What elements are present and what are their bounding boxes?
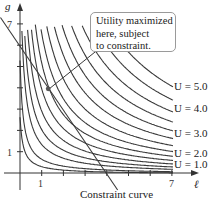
x-tick-label-7: 7 [169,178,174,189]
y-axis-arrow-icon [17,3,23,11]
curve-label-u3: U = 3.0 [174,127,208,139]
optimum-point [46,86,51,91]
constraint-label: Constraint curve [80,188,153,200]
y-axis-label: g [5,0,11,12]
callout-line-3: to constraint. [96,40,175,53]
callout-line-2: here, subject [96,28,175,41]
callout-line-1: Utility maximized [96,15,175,28]
x-axis-arrow-icon [191,170,199,176]
x-tick-label-1: 1 [38,178,43,189]
callout-leader-line [49,48,100,89]
y-tick-label-7: 7 [7,19,12,30]
indifference-curve [20,61,173,172]
callout-box: Utility maximized here, subject to const… [90,12,176,52]
x-axis-label: ℓ [194,178,199,190]
y-tick-label-1: 1 [7,147,12,158]
curve-label-u4: U = 4.0 [174,102,208,114]
curve-label-u5: U = 5.0 [174,80,208,92]
curve-label-u1: U = 1.0 [174,158,208,170]
